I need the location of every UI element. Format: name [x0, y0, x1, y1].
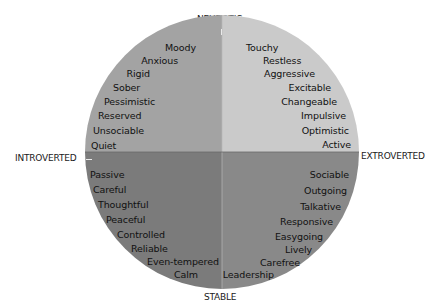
trait-restless: Restless	[263, 56, 301, 66]
trait-passive: Passive	[90, 170, 124, 180]
trait-peaceful: Peaceful	[106, 215, 145, 225]
trait-responsive: Responsive	[280, 217, 333, 227]
trait-careful: Careful	[93, 185, 126, 195]
trait-calm: Calm	[174, 270, 198, 280]
trait-controlled: Controlled	[117, 230, 165, 240]
trait-rigid: Rigid	[127, 69, 150, 79]
trait-even-tempered: Even-tempered	[147, 257, 219, 267]
trait-quiet: Quiet	[91, 141, 116, 151]
top-axis-tick	[221, 29, 222, 35]
trait-leadership: Leadership	[223, 270, 274, 280]
horizontal-divider	[85, 151, 359, 153]
trait-sober: Sober	[113, 83, 140, 93]
axis-label-extroverted: EXTROVERTED	[361, 152, 425, 161]
trait-talkative: Talkative	[300, 202, 341, 212]
left-axis-tick	[86, 159, 92, 160]
trait-lively: Lively	[285, 245, 312, 255]
trait-sociable: Sociable	[310, 170, 349, 180]
personality-circle	[85, 15, 359, 289]
trait-outgoing: Outgoing	[304, 186, 347, 196]
trait-reserved: Reserved	[98, 111, 141, 121]
trait-pessimistic: Pessimistic	[104, 97, 155, 107]
trait-optimistic: Optimistic	[302, 126, 349, 136]
trait-reliable: Reliable	[131, 244, 168, 254]
trait-easygoing: Easygoing	[275, 232, 323, 242]
trait-moody: Moody	[165, 43, 196, 53]
axis-label-introverted: INTROVERTED	[15, 154, 76, 163]
trait-excitable: Excitable	[289, 83, 331, 93]
trait-unsociable: Unsociable	[93, 126, 144, 136]
trait-thoughtful: Thoughtful	[98, 200, 148, 210]
trait-aggressive: Aggressive	[264, 69, 315, 79]
trait-anxious: Anxious	[141, 56, 178, 66]
trait-impulsive: Impulsive	[301, 111, 346, 121]
trait-touchy: Touchy	[246, 43, 278, 53]
trait-carefree: Carefree	[260, 258, 300, 268]
trait-active: Active	[322, 140, 351, 150]
axis-label-stable: STABLE	[204, 293, 236, 302]
trait-changeable: Changeable	[281, 97, 337, 107]
